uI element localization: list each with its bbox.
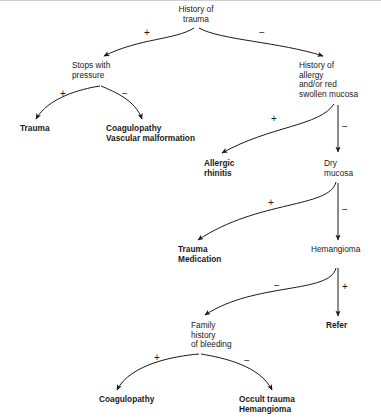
edge-dry-mucosa-to-trauma-medication <box>198 182 336 240</box>
node-line: history <box>191 330 216 340</box>
node-dry-mucosa: Drymucosa <box>324 158 353 178</box>
node-line: Hemangioma <box>311 244 361 254</box>
edge-sign-allergy-to-allergic-rhinitis: + <box>271 113 277 124</box>
node-coagulopathy-outcome: Coagulopathy <box>99 394 155 404</box>
node-trauma-outcome: Trauma <box>20 123 50 133</box>
node-line: History of <box>299 60 335 70</box>
edge-sign-root-to-history-of-allergy: − <box>259 27 265 38</box>
node-line: swollen mucosa <box>299 89 358 99</box>
edge-sign-dry-mucosa-to-trauma-medication: + <box>268 197 274 208</box>
edge-sign-stops-to-coagulopathy: − <box>122 88 128 99</box>
node-line: Dry <box>324 158 338 168</box>
edge-hemangioma-to-family-history <box>205 268 336 315</box>
figure-canvas: +−+−+−+−−++− History oftraumaStops withp… <box>0 0 381 420</box>
node-line: Occult trauma <box>239 394 295 404</box>
node-stops-with-pressure: Stops withpressure <box>72 60 111 80</box>
node-line: Vascular malformation <box>106 133 195 143</box>
node-line: mucosa <box>324 168 353 178</box>
node-line: and/or red <box>299 79 337 89</box>
node-line: Medication <box>178 254 221 264</box>
edge-sign-family-history-to-occult-trauma: − <box>244 355 250 366</box>
edge-sign-root-to-stops-with-pressure: + <box>144 27 150 38</box>
node-line: pressure <box>72 70 105 80</box>
node-occult-trauma-hemangioma: Occult traumaHemangioma <box>239 394 295 414</box>
edge-allergy-to-allergic-rhinitis <box>222 104 334 153</box>
edge-sign-dry-mucosa-to-hemangioma: − <box>342 204 348 215</box>
node-line: rhinitis <box>204 168 232 178</box>
node-line: Allergic <box>204 158 235 168</box>
node-line: Trauma <box>20 123 50 133</box>
node-line: Coagulopathy <box>106 123 162 133</box>
node-history-of-trauma: History oftrauma <box>178 4 214 24</box>
node-line: Trauma <box>178 244 208 254</box>
node-trauma-medication: TraumaMedication <box>178 244 221 264</box>
edge-sign-family-history-to-coagulopathy: + <box>154 352 160 363</box>
edge-family-history-to-occult-trauma <box>201 354 272 390</box>
edge-sign-hemangioma-to-family-history: − <box>274 280 280 291</box>
node-line: Coagulopathy <box>99 394 155 404</box>
edge-sign-allergy-to-dry-mucosa: − <box>342 121 348 132</box>
edge-sign-stops-to-trauma: + <box>60 88 66 99</box>
node-line: Hemangioma <box>239 404 291 414</box>
node-refer: Refer <box>326 320 348 330</box>
edges-layer <box>36 28 338 390</box>
nodes-layer: History oftraumaStops withpressureHistor… <box>20 4 361 414</box>
node-line: Family <box>191 320 216 330</box>
node-line: History of <box>178 4 214 14</box>
edge-stops-to-trauma <box>36 86 100 119</box>
node-hemangioma: Hemangioma <box>311 244 361 254</box>
node-line: of bleeding <box>191 339 232 349</box>
node-coagulopathy-vascular-malformation: CoagulopathyVascular malformation <box>106 123 195 143</box>
node-line: allergy <box>299 70 324 80</box>
node-line: trauma <box>183 14 209 24</box>
node-line: Stops with <box>72 60 111 70</box>
node-family-history-of-bleeding: Familyhistoryof bleeding <box>191 320 232 349</box>
node-history-of-allergy: History ofallergyand/or redswollen mucos… <box>299 60 358 99</box>
edge-sign-hemangioma-to-refer: + <box>342 281 348 292</box>
node-line: Refer <box>326 320 348 330</box>
flowchart-diagram: +−+−+−+−−++− History oftraumaStops withp… <box>0 0 381 420</box>
node-allergic-rhinitis: Allergicrhinitis <box>204 158 235 178</box>
